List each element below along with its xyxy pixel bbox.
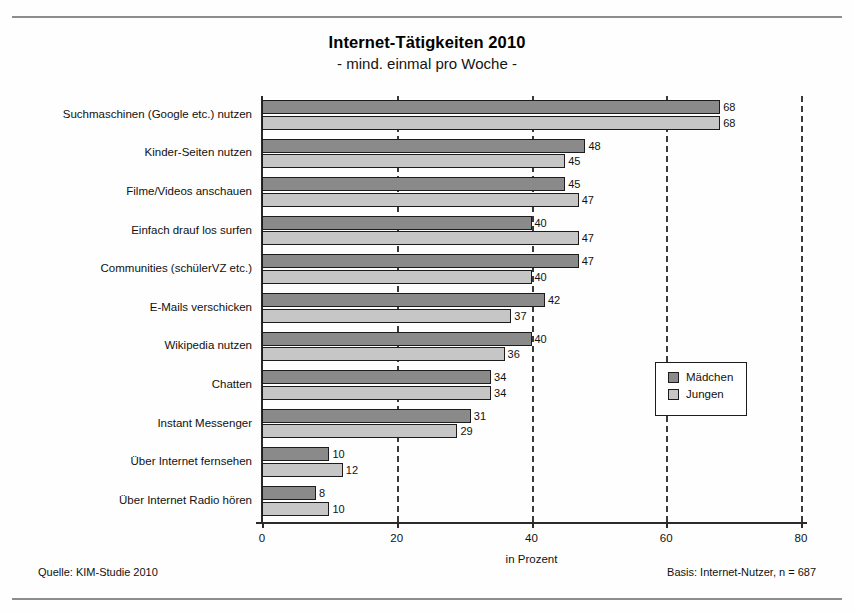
x-tick-mark-40 [532,522,534,528]
bar-jungen: 37 [262,309,511,323]
bar-value-label: 68 [723,101,735,113]
bar-maedchen: 68 [262,100,720,114]
chart-title-block: Internet-Tätigkeiten 2010 - mind. einmal… [0,32,854,73]
footer-source: Quelle: KIM-Studie 2010 [38,566,158,578]
bar-maedchen: 47 [262,254,579,268]
bar-maedchen: 10 [262,447,329,461]
bar-value-label: 47 [582,232,594,244]
bar-row: Communities (schülerVZ etc.)4740 [262,254,801,284]
bar-value-label: 8 [319,487,325,499]
bar-value-label: 40 [535,333,547,345]
bar-maedchen: 45 [262,177,565,191]
chart-legend: Mädchen Jungen [655,362,747,416]
bar-maedchen: 42 [262,293,545,307]
bar-jungen: 12 [262,463,343,477]
bar-maedchen: 40 [262,216,532,230]
bottom-divider-rule [12,598,842,600]
bar-value-label: 10 [332,448,344,460]
legend-item-jungen: Jungen [668,388,746,400]
bar-row: Über Internet fernsehen1012 [262,447,801,477]
bar-jungen: 45 [262,154,565,168]
bar-value-label: 37 [514,310,526,322]
bar-value-label: 68 [723,117,735,129]
category-label: Kinder-Seiten nutzen [2,146,252,158]
category-label: Instant Messenger [2,417,252,429]
bar-row: Suchmaschinen (Google etc.) nutzen6868 [262,100,801,130]
bar-jungen: 40 [262,270,532,284]
bar-value-label: 31 [474,410,486,422]
footer-basis: Basis: Internet-Nutzer, n = 687 [667,566,816,578]
category-label: Suchmaschinen (Google etc.) nutzen [2,108,252,120]
category-label: Über Internet fernsehen [2,455,252,467]
chart-title: Internet-Tätigkeiten 2010 [0,32,854,53]
bar-value-label: 36 [508,348,520,360]
legend-label-maedchen: Mädchen [686,371,733,383]
bar-maedchen: 48 [262,139,585,153]
bar-value-label: 40 [535,271,547,283]
x-tick-mark-80 [801,522,803,528]
chart-subtitle: - mind. einmal pro Woche - [0,54,854,74]
bar-value-label: 45 [568,178,580,190]
bar-jungen: 29 [262,424,457,438]
category-label: Chatten [2,378,252,390]
x-tick-label-0: 0 [259,532,265,544]
x-tick-mark-0 [262,522,264,528]
bar-jungen: 34 [262,386,491,400]
x-tick-label-60: 60 [660,532,673,544]
bar-jungen: 36 [262,347,505,361]
bar-value-label: 47 [582,194,594,206]
bar-maedchen: 34 [262,370,491,384]
bar-value-label: 48 [588,140,600,152]
top-divider-rule [12,16,842,18]
bar-row: Wikipedia nutzen4036 [262,332,801,362]
bar-row: E-Mails verschicken4237 [262,293,801,323]
bar-maedchen: 8 [262,486,316,500]
category-label: Filme/Videos anschauen [2,185,252,197]
bar-value-label: 34 [494,371,506,383]
category-label: Wikipedia nutzen [2,339,252,351]
bar-value-label: 34 [494,387,506,399]
bar-row: Über Internet Radio hören810 [262,486,801,516]
x-tick-label-80: 80 [795,532,808,544]
bar-value-label: 42 [548,294,560,306]
bar-maedchen: 31 [262,409,471,423]
bar-value-label: 12 [346,464,358,476]
bar-value-label: 45 [568,155,580,167]
gridline-80 [801,96,803,522]
x-tick-label-40: 40 [525,532,538,544]
legend-swatch-jungen-icon [668,389,679,400]
category-label: Über Internet Radio hören [2,494,252,506]
category-label: Einfach drauf los surfen [2,224,252,236]
bar-value-label: 40 [535,217,547,229]
legend-item-maedchen: Mädchen [668,371,746,383]
bar-value-label: 47 [582,255,594,267]
x-tick-mark-60 [666,522,668,528]
bar-row: Filme/Videos anschauen4547 [262,177,801,207]
bar-jungen: 68 [262,116,720,130]
bar-value-label: 29 [460,425,472,437]
category-label: Communities (schülerVZ etc.) [2,262,252,274]
bar-value-label: 10 [332,503,344,515]
plot-area: 020406080 Suchmaschinen (Google etc.) nu… [262,98,801,522]
bar-jungen: 47 [262,231,579,245]
bar-row: Einfach drauf los surfen4047 [262,216,801,246]
bar-row: Kinder-Seiten nutzen4845 [262,139,801,169]
category-label: E-Mails verschicken [2,301,252,313]
x-tick-mark-20 [397,522,399,528]
bar-jungen: 10 [262,502,329,516]
bar-maedchen: 40 [262,332,532,346]
bar-jungen: 47 [262,193,579,207]
x-axis-caption: in Prozent [262,553,801,565]
x-tick-label-20: 20 [390,532,403,544]
legend-swatch-maedchen-icon [668,372,679,383]
legend-label-jungen: Jungen [686,388,724,400]
chart-page: Internet-Tätigkeiten 2010 - mind. einmal… [0,0,854,613]
